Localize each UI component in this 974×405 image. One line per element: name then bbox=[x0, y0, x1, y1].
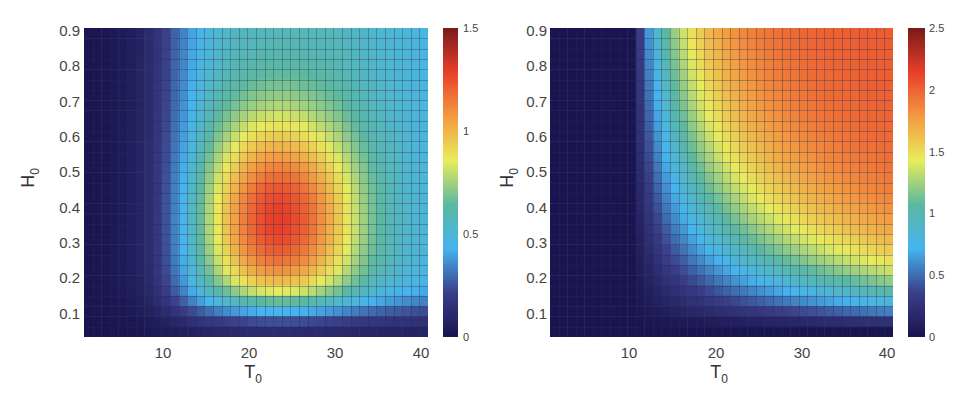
left-ytick: 0.5 bbox=[44, 163, 80, 180]
right-colorbar bbox=[908, 28, 925, 337]
left-ytick: 0.8 bbox=[44, 57, 80, 74]
left-heatmap-canvas bbox=[84, 28, 428, 337]
left-ytick: 0.4 bbox=[44, 199, 80, 216]
right-ytick: 0.1 bbox=[511, 305, 547, 322]
left-colorbar-gradient bbox=[443, 28, 458, 337]
right-xtick: 40 bbox=[879, 344, 896, 361]
right-chart-panel: H0 0.9 0.8 0.7 0.6 0.5 0.4 0.3 0.2 0.1 1… bbox=[487, 0, 974, 405]
right-ytick: 0.6 bbox=[511, 128, 547, 145]
right-colorbar-gradient bbox=[908, 28, 925, 337]
left-cbar-tick: 1 bbox=[463, 125, 469, 137]
right-ytick: 0.2 bbox=[511, 269, 547, 286]
left-ytick: 0.2 bbox=[44, 269, 80, 286]
right-ytick: 0.9 bbox=[511, 22, 547, 39]
right-ytick: 0.4 bbox=[511, 199, 547, 216]
left-cbar-tick: 1.5 bbox=[463, 22, 478, 34]
right-ytick: 0.3 bbox=[511, 234, 547, 251]
left-xtick: 30 bbox=[327, 344, 344, 361]
right-xtick: 30 bbox=[794, 344, 811, 361]
right-cbar-tick: 1.5 bbox=[929, 146, 944, 158]
left-x-axis-label: T0 bbox=[244, 362, 262, 386]
left-cbar-tick: 0 bbox=[463, 331, 469, 343]
right-heatmap bbox=[550, 28, 893, 337]
right-ytick: 0.7 bbox=[511, 93, 547, 110]
left-y-axis-label: H0 bbox=[18, 168, 42, 188]
left-ytick: 0.7 bbox=[44, 93, 80, 110]
right-cbar-tick: 1 bbox=[929, 207, 935, 219]
right-cbar-tick: 0.5 bbox=[929, 269, 944, 281]
left-cbar-tick: 0.5 bbox=[463, 228, 478, 240]
left-ytick: 0.6 bbox=[44, 128, 80, 145]
left-xtick: 40 bbox=[413, 344, 430, 361]
left-ytick: 0.3 bbox=[44, 234, 80, 251]
right-cbar-tick: 2 bbox=[929, 84, 935, 96]
left-chart-panel: H0 0.9 0.8 0.7 0.6 0.5 0.4 0.3 0.2 0.1 1… bbox=[0, 0, 487, 405]
left-colorbar bbox=[443, 28, 458, 337]
right-xtick: 20 bbox=[708, 344, 725, 361]
left-ytick: 0.1 bbox=[44, 305, 80, 322]
right-cbar-tick: 2.5 bbox=[929, 22, 944, 34]
right-cbar-tick: 0 bbox=[929, 331, 935, 343]
left-xtick: 20 bbox=[241, 344, 258, 361]
left-heatmap bbox=[84, 28, 428, 337]
right-ytick: 0.5 bbox=[511, 163, 547, 180]
right-heatmap-canvas bbox=[550, 28, 893, 337]
right-x-axis-label: T0 bbox=[710, 362, 728, 386]
left-xtick: 10 bbox=[155, 344, 172, 361]
right-ytick: 0.8 bbox=[511, 57, 547, 74]
right-xtick: 10 bbox=[621, 344, 638, 361]
left-ytick: 0.9 bbox=[44, 22, 80, 39]
